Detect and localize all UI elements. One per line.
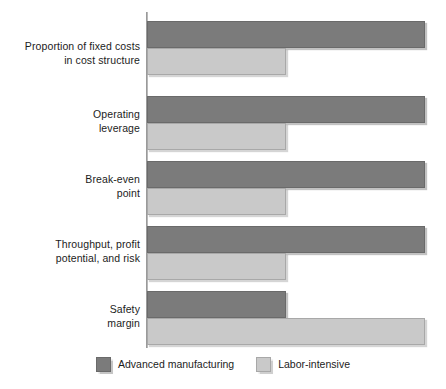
light-gray-swatch-icon: [256, 357, 271, 372]
category-label: Throughput, profit potential, and risk: [0, 238, 140, 265]
legend-label: Advanced manufacturing: [118, 358, 234, 371]
bar-fill: [147, 123, 286, 150]
bar-labor-intensive: [147, 48, 286, 75]
horizontal-bar-chart: Proportion of fixed costs in cost struct…: [0, 0, 446, 389]
category-label: Safety margin: [0, 303, 140, 330]
dark-gray-swatch-icon: [96, 357, 111, 372]
bar-fill: [147, 291, 286, 318]
chart-legend: Advanced manufacturing Labor-intensive: [0, 357, 446, 372]
bar-advanced-manufacturing: [147, 21, 425, 48]
category-label: Break-even point: [0, 173, 140, 200]
bar-fill: [147, 188, 286, 215]
bar-fill: [147, 161, 425, 188]
bar-advanced-manufacturing: [147, 96, 425, 123]
bar-labor-intensive: [147, 318, 425, 345]
plot-area: Proportion of fixed costs in cost struct…: [0, 0, 446, 352]
bar-fill: [147, 253, 286, 280]
bar-labor-intensive: [147, 123, 286, 150]
bar-fill: [147, 21, 425, 48]
bar-fill: [147, 96, 425, 123]
bar-labor-intensive: [147, 253, 286, 280]
bar-fill: [147, 48, 286, 75]
legend-item-labor-intensive: Labor-intensive: [256, 357, 350, 372]
bar-labor-intensive: [147, 188, 286, 215]
bar-advanced-manufacturing: [147, 161, 425, 188]
bar-advanced-manufacturing: [147, 226, 425, 253]
category-label: Proportion of fixed costs in cost struct…: [0, 40, 140, 67]
bar-advanced-manufacturing: [147, 291, 286, 318]
legend-label: Labor-intensive: [278, 358, 350, 371]
legend-item-advanced-manufacturing: Advanced manufacturing: [96, 357, 234, 372]
bar-fill: [147, 318, 425, 345]
bar-fill: [147, 226, 425, 253]
category-label: Operating leverage: [0, 108, 140, 135]
